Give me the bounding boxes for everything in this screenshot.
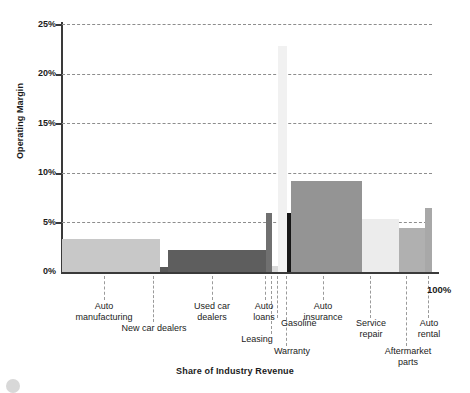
- gridline-10: [62, 173, 432, 174]
- category-label-aftermarket-parts: Aftermarket parts: [378, 346, 438, 367]
- category-label-warranty: Warranty: [262, 346, 322, 357]
- y-tick-15: 15%: [22, 118, 56, 128]
- bar-gasoline[interactable]: [278, 46, 287, 272]
- category-label-leasing: Leasing: [232, 334, 282, 345]
- bar-auto-loans[interactable]: [266, 213, 272, 273]
- bar-used-car-dealers[interactable]: [168, 250, 266, 272]
- corner-decoration: [6, 379, 20, 393]
- x-axis-title: Share of Industry Revenue: [0, 366, 470, 376]
- gridline-25: [62, 24, 432, 25]
- leader-service-repair: [370, 276, 371, 318]
- bar-new-car-dealers[interactable]: [160, 267, 168, 272]
- y-tick-25: 25%: [22, 19, 56, 29]
- category-label-auto-insurance: Auto insurance: [295, 301, 351, 322]
- leader-new-car-dealers: [153, 276, 154, 322]
- category-label-auto-loans: Auto loans: [242, 301, 286, 322]
- y-tick-5: 5%: [22, 217, 56, 227]
- bar-aftermarket-parts[interactable]: [399, 228, 425, 272]
- leader-warranty: [286, 276, 287, 346]
- bar-auto-manufacturing[interactable]: [62, 239, 160, 272]
- bar-auto-rental[interactable]: [425, 208, 432, 273]
- y-tick-10: 10%: [22, 167, 56, 177]
- leader-auto-loans: [265, 276, 266, 300]
- leader-auto-manufacturing: [104, 276, 105, 300]
- category-label-used-car-dealers: Used car dealers: [182, 301, 242, 322]
- category-label-auto-manufacturing: Auto manufacturing: [64, 301, 144, 322]
- y-tick-20: 20%: [22, 68, 56, 78]
- bar-auto-insurance[interactable]: [291, 181, 362, 272]
- gridline-20: [62, 74, 432, 75]
- leader-auto-insurance: [323, 276, 324, 300]
- x-axis-line: [61, 272, 439, 274]
- leader-used-car-dealers: [212, 276, 213, 300]
- bar-service-repair[interactable]: [362, 219, 399, 272]
- y-tick-0: 0%: [22, 266, 56, 276]
- x-axis-end-label: 100%: [427, 284, 451, 295]
- gridline-15: [62, 123, 432, 124]
- category-label-service-repair: Service repair: [348, 318, 394, 339]
- category-label-auto-rental: Auto rental: [407, 318, 451, 339]
- leader-auto-rental: [428, 276, 429, 318]
- category-label-new-car-dealers: New car dealers: [110, 323, 198, 334]
- plot-area: [62, 24, 432, 272]
